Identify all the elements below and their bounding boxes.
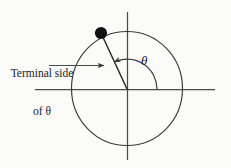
- theta-angle-label: θ: [141, 54, 147, 69]
- terminal-side-label-line2: of θ: [8, 105, 76, 118]
- terminal-point-marker: [95, 27, 107, 39]
- terminal-side-label-line1: Terminal side: [8, 67, 76, 80]
- trigonometry-figure: Terminal side of θ θ: [0, 0, 231, 168]
- terminal-side-label: Terminal side of θ: [8, 41, 76, 144]
